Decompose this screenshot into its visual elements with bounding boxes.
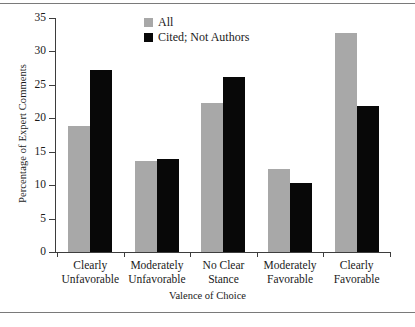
bar-group xyxy=(190,18,257,252)
bottom-divider-rule xyxy=(0,312,415,313)
bar-group xyxy=(257,18,324,252)
bar-group xyxy=(323,18,390,252)
x-axis-tick xyxy=(323,252,324,257)
y-axis-tick-label: 35 xyxy=(6,12,46,24)
y-axis-tick-label: 30 xyxy=(6,45,46,57)
x-axis-category-label: ClearlyFavorable xyxy=(316,259,398,286)
x-axis-tick xyxy=(190,252,191,257)
bar-cited xyxy=(357,106,379,252)
figure-container: All Cited; Not Authors Percentage of Exp… xyxy=(0,0,415,327)
bar-all xyxy=(335,33,357,252)
y-axis-tick xyxy=(49,152,55,153)
bar-cited xyxy=(157,159,179,252)
x-axis-tick xyxy=(390,252,391,257)
bar-all xyxy=(268,169,290,252)
x-axis-category-label-line: Clearly xyxy=(316,259,398,273)
y-axis-tick-label: 20 xyxy=(6,112,46,124)
bar-group xyxy=(57,18,124,252)
bar-all xyxy=(201,103,223,252)
x-axis-tick xyxy=(124,252,125,257)
y-axis-tick xyxy=(49,18,55,19)
bar-cited xyxy=(290,183,312,252)
bar-group xyxy=(124,18,191,252)
y-axis-tick xyxy=(49,185,55,186)
y-axis-title: Percentage of Expert Comments xyxy=(17,29,28,239)
x-axis-tick xyxy=(257,252,258,257)
bar-all xyxy=(135,161,157,252)
y-axis-tick xyxy=(49,252,55,253)
bar-cited xyxy=(90,70,112,252)
bar-all xyxy=(68,126,90,252)
x-axis-line xyxy=(55,252,391,253)
x-axis-category-label-line: Favorable xyxy=(316,273,398,287)
y-axis-tick-label: 25 xyxy=(6,79,46,91)
top-divider-rule xyxy=(0,3,415,4)
y-axis-line xyxy=(55,18,56,253)
y-axis-tick xyxy=(49,118,55,119)
y-axis-tick-label: 15 xyxy=(6,146,46,158)
y-axis-tick xyxy=(49,51,55,52)
y-axis-tick-label: 0 xyxy=(6,246,46,258)
y-axis-tick xyxy=(49,219,55,220)
y-axis-tick-label: 10 xyxy=(6,179,46,191)
bar-cited xyxy=(223,77,245,252)
plot-area xyxy=(57,18,390,252)
x-axis-tick xyxy=(57,252,58,257)
y-axis-tick xyxy=(49,85,55,86)
x-axis-title: Valence of Choice xyxy=(0,290,415,301)
y-axis-tick-label: 5 xyxy=(6,213,46,225)
